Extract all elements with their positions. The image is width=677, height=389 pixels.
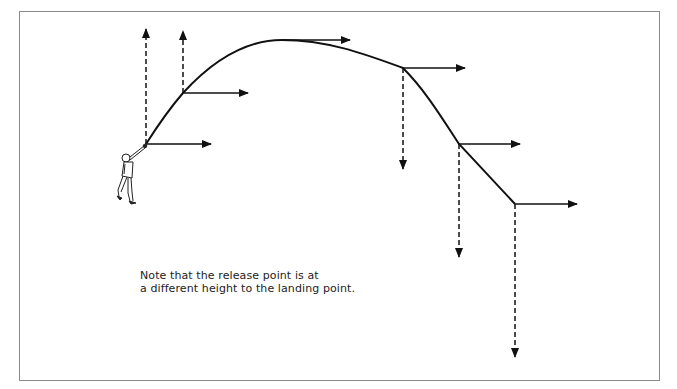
trajectory-diagram (0, 0, 677, 389)
velocity-arrows (146, 29, 577, 357)
note-line-2: a different height to the landing point. (140, 282, 355, 295)
note-line-1: Note that the release point is at (140, 269, 355, 282)
note-text: Note that the release point is at a diff… (140, 269, 355, 295)
thrower-icon (117, 144, 147, 204)
